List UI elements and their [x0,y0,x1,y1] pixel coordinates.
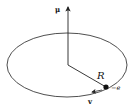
electron-dot [103,84,108,89]
charge-label: −e [111,84,120,92]
radius-label: R [96,70,105,81]
electron-orbit [7,33,127,97]
mu-label: μ [55,5,60,14]
velocity-label: v [87,97,93,106]
orbital-magnetic-moment-diagram: μ R −e v [0,0,135,109]
